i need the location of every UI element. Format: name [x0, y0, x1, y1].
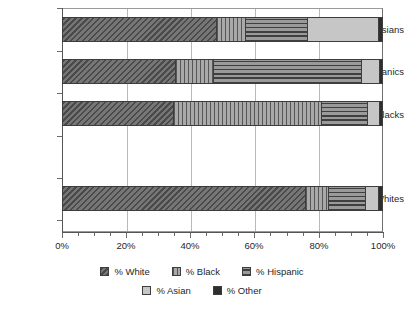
x-tick-minor-65: [270, 233, 271, 236]
stacked-bar-chart: Asians Hispanics Blacks Whites: [0, 0, 404, 312]
x-tick-minor-90: [351, 233, 352, 236]
legend-label-other: % Other: [227, 285, 262, 296]
x-tick-minor-55: [238, 233, 239, 236]
legend-item-hispanic[interactable]: % Hispanic: [242, 266, 304, 277]
legend-swatch-hispanic-icon: [242, 267, 251, 276]
bar-segment-white: [62, 59, 175, 84]
legend-swatch-white-icon: [100, 267, 109, 276]
bar-segment-other: [379, 101, 383, 126]
bar-segment-white: [62, 17, 216, 42]
x-tick-minor-75: [303, 233, 304, 236]
x-tick-minor-5: [78, 233, 79, 236]
x-tick-minor-35: [174, 233, 175, 236]
bar-segment-hispanic: [213, 59, 361, 84]
legend-swatch-other-icon: [213, 286, 222, 295]
y-tick-4: [57, 178, 62, 179]
legend-item-black[interactable]: % Black: [172, 266, 220, 277]
legend-label-black: % Black: [186, 266, 220, 277]
x-tick-minor-95: [367, 233, 368, 236]
x-label-60: 60%: [244, 240, 263, 251]
y-tick-0: [57, 8, 62, 9]
legend-swatch-asian-icon: [142, 286, 151, 295]
y-tick-3: [57, 136, 62, 137]
legend-row-2: % Asian % Other: [0, 281, 404, 300]
bar-segment-hispanic: [245, 17, 307, 42]
x-tick-minor-10: [94, 233, 95, 236]
x-tick-major-40: [190, 233, 191, 238]
bar-segment-asian: [361, 59, 379, 84]
bar-segment-white: [62, 186, 305, 211]
bar-segment-black: [173, 101, 321, 126]
legend-row-1: % White % Black % Hispanic: [0, 262, 404, 281]
x-tick-minor-15: [110, 233, 111, 236]
bar-segment-black: [216, 17, 245, 42]
bar-segment-white: [62, 101, 173, 126]
x-tick-minor-50: [222, 233, 223, 236]
bar-segment-other: [379, 59, 383, 84]
x-label-80: 80%: [309, 240, 328, 251]
bar-segment-asian: [367, 101, 379, 126]
x-label-40: 40%: [180, 240, 199, 251]
bar-segment-hispanic: [321, 101, 367, 126]
x-tick-minor-70: [287, 233, 288, 236]
legend-label-asian: % Asian: [156, 285, 190, 296]
legend-item-white[interactable]: % White: [100, 266, 149, 277]
legend-item-other[interactable]: % Other: [213, 285, 262, 296]
legend-label-hispanic: % Hispanic: [256, 266, 304, 277]
chart-legend: % White % Black % Hispanic % Asian % Oth…: [0, 262, 404, 300]
bar-segment-other: [378, 17, 383, 42]
x-tick-minor-45: [206, 233, 207, 236]
x-tick-major-0: [62, 233, 63, 238]
x-tick-major-100: [383, 233, 384, 238]
bar-segment-black: [175, 59, 213, 84]
legend-swatch-black-icon: [172, 267, 181, 276]
legend-item-asian[interactable]: % Asian: [142, 285, 190, 296]
bar-segment-hispanic: [328, 186, 365, 211]
y-tick-1: [57, 51, 62, 52]
x-tick-minor-30: [158, 233, 159, 236]
x-tick-major-80: [319, 233, 320, 238]
y-tick-2: [57, 93, 62, 94]
bar-segment-black: [305, 186, 328, 211]
y-tick-5: [57, 220, 62, 221]
bar-segment-asian: [365, 186, 378, 211]
x-tick-major-20: [126, 233, 127, 238]
bar-segment-asian: [307, 17, 378, 42]
bar-segment-other: [378, 186, 383, 211]
x-tick-minor-25: [142, 233, 143, 236]
x-label-20: 20%: [116, 240, 135, 251]
x-tick-major-60: [254, 233, 255, 238]
x-tick-minor-85: [335, 233, 336, 236]
x-label-0: 0%: [55, 240, 69, 251]
x-label-100: 100%: [371, 240, 395, 251]
legend-label-white: % White: [114, 266, 149, 277]
